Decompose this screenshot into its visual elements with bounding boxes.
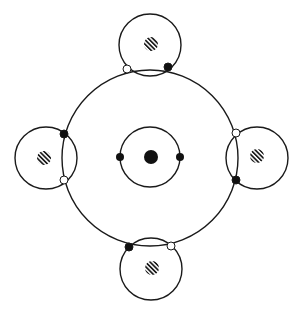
top-bond-electron-light — [123, 65, 131, 73]
left-bond-electron-dark — [60, 130, 68, 138]
bottom-bond-electron-dark — [125, 243, 133, 251]
bottom-atom-nucleus-hatched — [145, 261, 159, 275]
inner-electron-0 — [116, 153, 124, 161]
inner-electron-1 — [176, 153, 184, 161]
top-atom-nucleus-hatched — [144, 37, 158, 51]
left-bond-electron-light — [60, 176, 68, 184]
diagram-canvas — [0, 0, 299, 316]
left-atom-nucleus-hatched — [37, 151, 51, 165]
nuclei — [37, 37, 264, 275]
atom-bonding-diagram: Atomic bonding diagram: central atom wit… — [0, 0, 299, 316]
central-nucleus — [144, 150, 158, 164]
bottom-bond-electron-light — [167, 242, 175, 250]
top-bond-electron-dark — [164, 63, 172, 71]
right-atom-nucleus-hatched — [250, 149, 264, 163]
right-bond-electron-dark — [232, 176, 240, 184]
right-bond-electron-light — [232, 129, 240, 137]
